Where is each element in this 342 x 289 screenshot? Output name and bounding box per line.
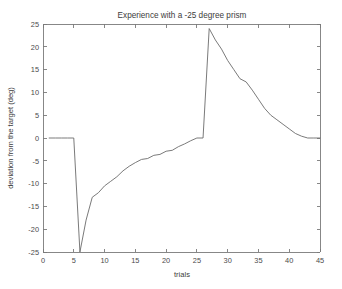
plot-frame [43,24,320,252]
y-tick-label: 10 [31,88,39,97]
x-axis-label: trials [174,270,190,279]
y-axis-label: deviation from the target (deg) [6,87,15,189]
y-tick-label: -10 [28,179,39,188]
x-tick-label: 40 [285,256,293,265]
y-tick-label: 5 [35,111,39,120]
x-tick-label: 45 [316,256,324,265]
y-tick-label: -15 [28,202,39,211]
x-tick-label: 0 [41,256,45,265]
y-tick-label: 20 [31,43,39,52]
y-tick-label: -20 [28,225,39,234]
x-tick-label: 10 [100,256,108,265]
x-tick-label: 30 [224,256,232,265]
y-tick-label: 0 [35,134,39,143]
y-tick-label: -5 [32,157,39,166]
x-tick-label: 20 [162,256,170,265]
x-tick-label: 15 [131,256,139,265]
y-tick-label: 15 [31,65,39,74]
x-tick-label: 5 [72,256,76,265]
y-tick-label: -25 [28,248,39,257]
chart-title: Experience with a -25 degree prism [118,11,247,20]
x-tick-label: 35 [254,256,262,265]
x-tick-label: 25 [193,256,201,265]
figure-container: Experience with a -25 degree prism -25-2… [0,0,342,289]
line-chart: Experience with a -25 degree prism -25-2… [0,0,342,289]
data-series-deviation [49,29,320,252]
y-tick-label: 25 [31,20,39,29]
